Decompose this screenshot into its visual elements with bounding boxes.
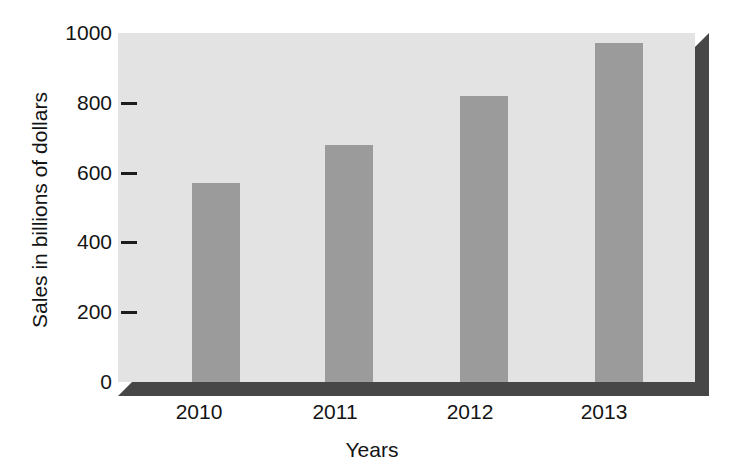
x-tick-label-2010: 2010 [149,401,249,422]
y-axis-tick-group: 02004006008001000 [0,0,112,473]
y-tick-label-600: 600 [52,162,112,183]
y-tick-label-400: 400 [52,231,112,252]
bar-2011 [325,145,373,382]
y-tick-label-1000: 1000 [52,22,112,43]
bars-layer [118,33,695,382]
x-tick-label-2011: 2011 [285,401,385,422]
bar-2012 [460,96,508,382]
y-tick-label-800: 800 [52,92,112,113]
plot-shadow-bottom-bevel [118,382,132,396]
plot-shadow-bottom [132,382,709,396]
plot-shadow-right-bevel [695,33,709,47]
plot-shadow-right [695,47,709,396]
y-tick-mark-800 [121,102,137,105]
bar-2010 [192,183,240,382]
plot-area [118,33,695,382]
bar-2013 [595,43,643,382]
y-tick-label-200: 200 [52,301,112,322]
y-tick-label-0: 0 [52,371,112,392]
y-axis-title: Sales in billions of dollars [28,60,52,360]
y-tick-mark-200 [121,311,137,314]
x-tick-label-2012: 2012 [420,401,520,422]
x-tick-label-2013: 2013 [554,401,654,422]
y-tick-mark-400 [121,241,137,244]
x-axis-title: Years [0,438,744,462]
bar-chart-figure: 02004006008001000 Sales in billions of d… [0,0,744,473]
y-tick-mark-600 [121,172,137,175]
